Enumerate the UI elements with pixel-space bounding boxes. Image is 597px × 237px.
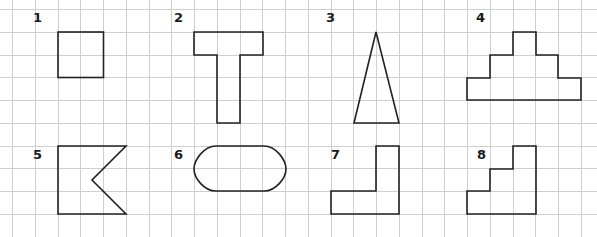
shape-number-1: 1 [33,10,42,25]
shapes-grid-figure: 1 2 3 4 5 6 7 8 [0,0,597,237]
shape-8-staircase: 8 [467,146,536,214]
shape-1-square: 1 [33,10,104,78]
shape-number-5: 5 [33,147,42,162]
shape-number-7: 7 [331,147,340,162]
shape-number-8: 8 [477,147,486,162]
shape-number-3: 3 [326,10,335,25]
shape-3-triangle: 3 [326,10,399,123]
shape-number-6: 6 [174,147,183,162]
shape-number-4: 4 [476,10,485,25]
shape-5-notched-flag: 5 [33,146,126,214]
shape-number-2: 2 [174,10,183,25]
grid-lines [0,0,597,237]
grid-canvas: 1 2 3 4 5 6 7 8 [0,0,597,237]
shape-2-t-shape: 2 [174,10,263,123]
shape-7-l-shape: 7 [331,146,399,214]
